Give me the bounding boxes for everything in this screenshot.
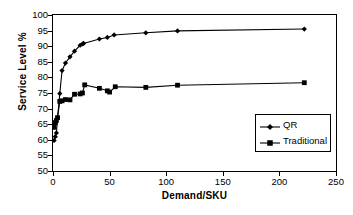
x-tick-mark xyxy=(166,172,167,176)
data-point-square xyxy=(72,92,77,97)
data-point-diamond xyxy=(105,35,110,40)
y-tick-label: 60 xyxy=(18,135,48,145)
y-tick-mark xyxy=(48,31,52,32)
y-tick-mark xyxy=(48,15,52,16)
data-point-square xyxy=(107,90,112,95)
y-tick-label: 70 xyxy=(18,104,48,114)
x-tick-label: 200 xyxy=(259,177,299,187)
diamond-marker-icon xyxy=(259,119,281,131)
y-tick-mark xyxy=(48,46,52,47)
data-point-diamond xyxy=(175,28,180,33)
x-tick-label: 250 xyxy=(316,177,353,187)
legend-item-traditional: Traditional xyxy=(259,134,327,148)
legend-label: QR xyxy=(281,120,297,130)
data-point-square xyxy=(63,97,68,102)
y-tick-label: 80 xyxy=(18,73,48,83)
data-point-square xyxy=(97,86,102,91)
x-tick-label: 0 xyxy=(33,177,73,187)
data-point-square xyxy=(143,85,148,90)
data-point-square xyxy=(68,97,73,102)
data-point-square xyxy=(267,140,273,146)
y-tick-mark xyxy=(48,171,52,172)
square-marker-icon xyxy=(259,135,281,147)
y-tick-mark xyxy=(48,155,52,156)
data-point-diamond xyxy=(97,36,102,41)
y-tick-mark xyxy=(48,109,52,110)
y-tick-label: 95 xyxy=(18,26,48,36)
data-point-diamond xyxy=(57,91,62,96)
data-point-square xyxy=(80,91,85,96)
service-level-chart: Service Level % 50556065707580859095100 … xyxy=(0,0,353,215)
y-tick-label: 85 xyxy=(18,57,48,67)
y-tick-label: 55 xyxy=(18,151,48,161)
x-axis-title: Demand/SKU xyxy=(52,190,337,201)
data-point-diamond xyxy=(267,124,273,130)
x-tick-mark xyxy=(53,172,54,176)
chart-legend: QRTraditional xyxy=(255,114,331,152)
data-point-square xyxy=(302,80,307,85)
legend-item-qr: QR xyxy=(259,118,327,132)
x-tick-mark xyxy=(223,172,224,176)
x-tick-mark xyxy=(279,172,280,176)
data-point-square xyxy=(113,84,118,89)
data-point-diamond xyxy=(143,30,148,35)
data-point-square xyxy=(55,115,60,120)
y-tick-label: 65 xyxy=(18,119,48,129)
x-tick-label: 100 xyxy=(146,177,186,187)
x-tick-mark xyxy=(336,172,337,176)
y-tick-mark xyxy=(48,124,52,125)
data-point-diamond xyxy=(59,68,64,73)
y-tick-mark xyxy=(48,77,52,78)
y-tick-label: 100 xyxy=(18,10,48,20)
y-tick-label: 50 xyxy=(18,166,48,176)
x-tick-label: 150 xyxy=(203,177,243,187)
x-tick-mark xyxy=(110,172,111,176)
x-tick-label: 50 xyxy=(90,177,130,187)
data-point-square xyxy=(82,82,87,87)
x-axis-tick-labels: 050100150200250 xyxy=(0,177,353,191)
data-point-diamond xyxy=(302,26,307,31)
y-tick-mark xyxy=(48,93,52,94)
data-point-diamond xyxy=(54,130,59,135)
data-point-square xyxy=(175,83,180,88)
legend-label: Traditional xyxy=(281,136,327,146)
y-tick-mark xyxy=(48,62,52,63)
y-tick-mark xyxy=(48,140,52,141)
y-tick-label: 90 xyxy=(18,41,48,51)
data-point-square xyxy=(53,125,57,130)
y-tick-label: 75 xyxy=(18,88,48,98)
data-point-diamond xyxy=(112,32,117,37)
